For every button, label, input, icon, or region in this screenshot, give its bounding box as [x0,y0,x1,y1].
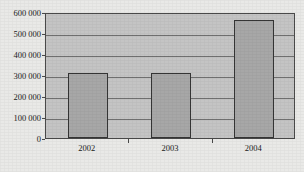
y-axis-tick-mark [42,13,45,14]
bar-chart: 600 000500 000400 000300 000200 000100 0… [0,0,304,172]
x-axis-tick-label: 2004 [245,144,262,153]
y-axis: 600 000500 000400 000300 000200 000100 0… [45,13,295,139]
x-axis: 200220032004 [45,144,295,158]
y-axis-tick-label: 0 [1,135,41,144]
x-axis-tick-mark [212,139,213,143]
y-axis-tick-mark [42,55,45,56]
y-axis-tick-mark [42,118,45,119]
y-axis-tick-mark [42,34,45,35]
y-axis-tick-mark [42,139,45,140]
x-axis-tick-mark [128,139,129,143]
y-axis-tick-label: 400 000 [1,51,41,60]
y-axis-tick-label: 200 000 [1,93,41,102]
y-axis-tick-label: 100 000 [1,114,41,123]
y-axis-tick-mark [42,97,45,98]
y-axis-tick-label: 600 000 [1,9,41,18]
y-axis-tick-label: 500 000 [1,30,41,39]
y-axis-tick-mark [42,76,45,77]
x-axis-tick-label: 2002 [78,144,95,153]
y-axis-tick-label: 300 000 [1,72,41,81]
x-axis-tick-label: 2003 [162,144,179,153]
